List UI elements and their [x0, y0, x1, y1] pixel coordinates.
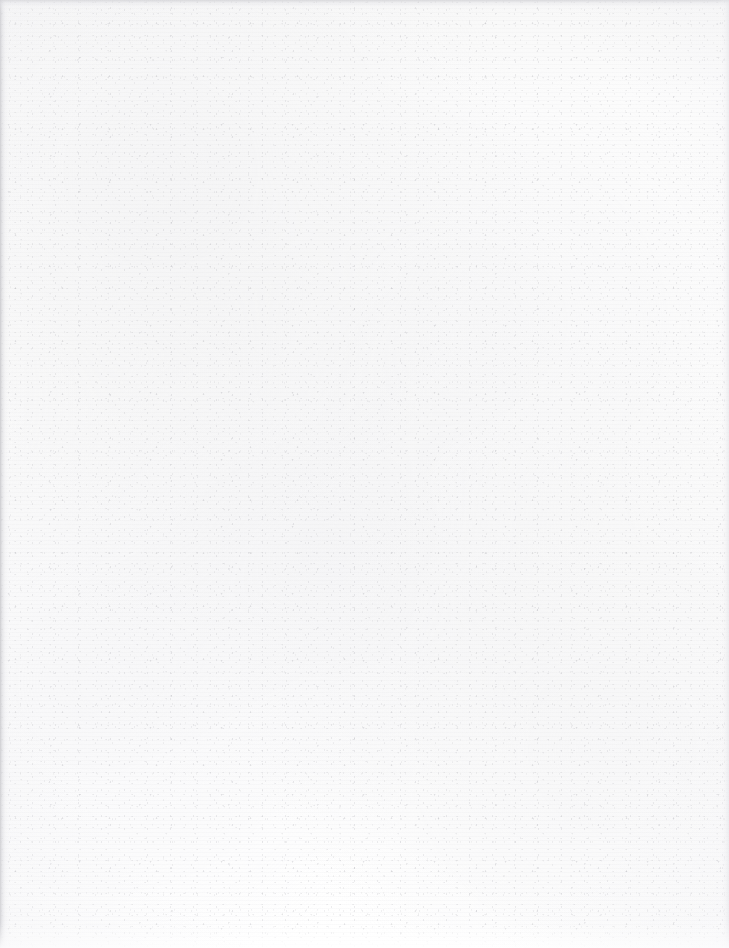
page-content-area [0, 0, 729, 948]
scanned-page [0, 0, 729, 948]
